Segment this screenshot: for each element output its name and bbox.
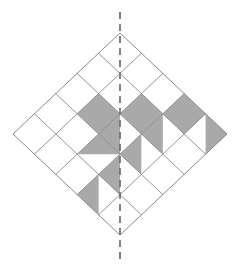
shaded-cell [163,94,206,134]
grid-line-ne [34,53,141,154]
figure-root: Shaded diamond grid with vertical line o… [0,0,242,272]
shaded-cell [120,134,141,174]
shaded-cells-layer [77,94,227,215]
shaded-cell [77,174,98,214]
diamond-grid-svg [0,0,242,272]
shaded-cell [99,154,120,194]
shaded-cell [206,114,227,154]
